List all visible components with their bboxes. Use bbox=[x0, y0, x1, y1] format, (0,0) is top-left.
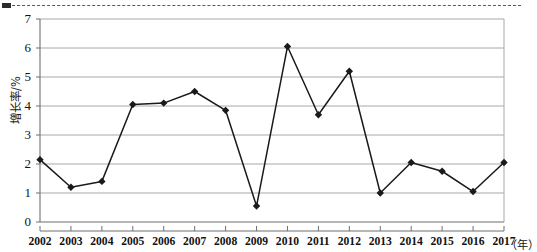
data-point-2009 bbox=[253, 202, 260, 209]
data-point-2005 bbox=[129, 101, 136, 108]
y-tick-label-7: 7 bbox=[15, 11, 31, 27]
data-series-line bbox=[40, 47, 504, 207]
x-tick-label-2010: 2010 bbox=[271, 235, 303, 248]
y-tick-label-0: 0 bbox=[15, 214, 31, 230]
x-tick-label-2014: 2014 bbox=[395, 235, 427, 248]
data-point-2007 bbox=[191, 88, 198, 95]
x-tick-label-2011: 2011 bbox=[302, 235, 334, 248]
gridlines-group bbox=[40, 19, 504, 222]
y-tick-label-4: 4 bbox=[15, 98, 31, 114]
data-point-2004 bbox=[98, 178, 105, 185]
x-tick-label-2012: 2012 bbox=[333, 235, 365, 248]
x-tick-label-2015: 2015 bbox=[426, 235, 458, 248]
y-tick-label-1: 1 bbox=[15, 185, 31, 201]
data-point-2008 bbox=[222, 107, 229, 114]
x-tick-label-2007: 2007 bbox=[179, 235, 211, 248]
x-tick-label-2008: 2008 bbox=[210, 235, 242, 248]
x-tick-label-2005: 2005 bbox=[117, 235, 149, 248]
x-tick-label-2013: 2013 bbox=[364, 235, 396, 248]
data-point-2010 bbox=[284, 43, 291, 50]
x-tick-label-2002: 2002 bbox=[24, 235, 56, 248]
y-tick-marks-group bbox=[36, 19, 40, 222]
x-tick-label-2016: 2016 bbox=[457, 235, 489, 248]
x-tick-label-2006: 2006 bbox=[148, 235, 180, 248]
y-tick-label-5: 5 bbox=[15, 69, 31, 85]
y-tick-label-6: 6 bbox=[15, 40, 31, 56]
y-tick-label-3: 3 bbox=[15, 127, 31, 143]
x-tick-marks-group bbox=[40, 226, 504, 231]
x-tick-label-2009: 2009 bbox=[241, 235, 273, 248]
x-tick-label-2003: 2003 bbox=[55, 235, 87, 248]
x-axis-unit-label: （年） bbox=[506, 236, 537, 252]
x-tick-label-2004: 2004 bbox=[86, 235, 118, 248]
y-tick-label-2: 2 bbox=[15, 156, 31, 172]
